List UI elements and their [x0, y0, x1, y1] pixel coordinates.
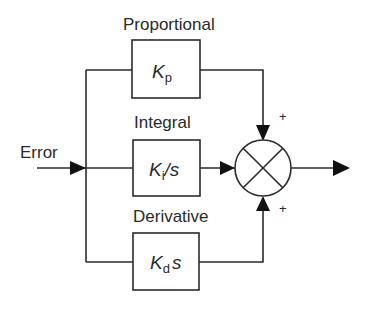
derivative-arrow-icon	[256, 196, 270, 211]
integral-arrow-icon	[220, 161, 235, 175]
pid-block-diagram: Error Proportional Kp + Integral Ki/s De…	[0, 0, 369, 309]
proportional-gain-block	[132, 40, 200, 98]
derivative-output-line	[199, 210, 263, 262]
error-input-arrow-icon	[70, 161, 86, 175]
proportional-arrow-icon	[256, 125, 270, 141]
integral-label: Integral	[134, 113, 191, 132]
derivative-label: Derivative	[133, 207, 209, 226]
summing-junction-icon	[235, 140, 291, 196]
top-plus-sign: +	[279, 109, 287, 124]
output-arrow-icon	[333, 160, 350, 176]
proportional-output-line	[200, 70, 263, 126]
proportional-label: Proportional	[123, 15, 215, 34]
error-label: Error	[20, 143, 58, 162]
bottom-plus-sign: +	[279, 201, 287, 216]
integral-gain-text: Ki/s	[149, 159, 180, 183]
